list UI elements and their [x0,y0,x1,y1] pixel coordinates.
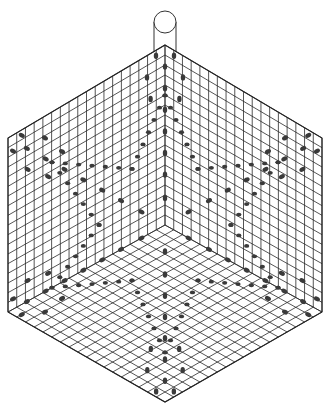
snowflake-diagram: Hexagonal beaded snowflake pattern [0,0,331,405]
rhombic-grid [8,45,322,402]
hexagon-grid-figure [0,0,331,405]
